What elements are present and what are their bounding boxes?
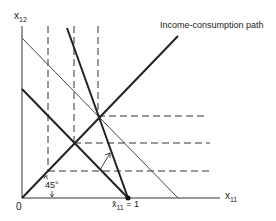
diagram-canvas [0,0,276,221]
y-axis-label-sub: 12 [19,16,27,23]
endowment-label-sub: 11 [117,204,124,211]
endowment-label: x̄11 = 1 [112,199,139,209]
endowment-label-main: x̄ [112,199,117,209]
x-axis-label-sub: 11 [230,196,237,203]
angle-label: 45° [45,180,59,190]
origin-label: 0 [16,201,22,212]
path-label: Income-consumption path [160,20,264,30]
endowment-value: = 1 [124,199,139,209]
y-axis-label: x12 [14,10,27,21]
x-axis-label: x11 [225,190,237,201]
shift-arrow-icon [100,153,110,170]
horizontal-dashed-lines [48,116,212,171]
vertical-dashed-lines [48,26,98,171]
